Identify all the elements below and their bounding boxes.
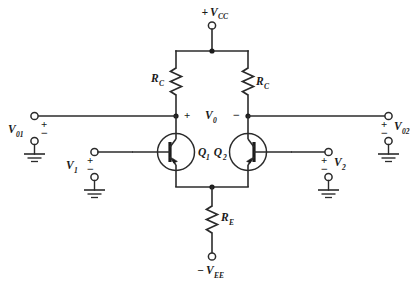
schematic-canvas: + V CC R C R C + − V 0 + − V 01 <box>0 0 419 283</box>
v0-subscript: 0 <box>213 116 217 125</box>
rc-right-zigzag <box>243 68 254 95</box>
rc-right-subscript: C <box>264 82 270 91</box>
rc-left-subscript: C <box>159 79 165 88</box>
vee-subscript: EE <box>213 271 224 280</box>
vcc-subscript: CC <box>218 12 229 21</box>
input-port-left-group: + − V 1 <box>66 148 132 197</box>
v01-minus-sign: − <box>41 126 48 140</box>
collector-resistor-left-group: R C <box>150 51 182 116</box>
v02-subscript: 02 <box>402 127 410 136</box>
rc-left-zigzag <box>171 68 182 95</box>
v01-subscript: 01 <box>16 130 24 139</box>
re-label: R <box>220 211 229 223</box>
v0-minus-sign: − <box>233 108 240 122</box>
v01-plus-terminal[interactable] <box>31 112 38 119</box>
input-port-right-group: + − V 2 <box>292 148 346 197</box>
emitter-resistor-group: R E <box>207 187 235 253</box>
v1-subscript: 1 <box>74 166 78 175</box>
supply-negative-group: − V EE <box>197 253 224 280</box>
collector-resistor-right-group: R C <box>243 51 271 116</box>
re-zigzag <box>207 206 218 233</box>
v01-minus-terminal[interactable] <box>31 137 38 144</box>
v0-plus-sign: + <box>184 109 190 121</box>
vcc-terminal-circle[interactable] <box>208 22 215 29</box>
top-rail-junction-dot <box>209 48 214 53</box>
v2-minus-sign: − <box>321 162 328 176</box>
supply-positive-group: + V CC <box>201 6 229 51</box>
re-subscript: E <box>228 218 234 227</box>
vee-terminal-circle[interactable] <box>208 253 215 260</box>
q2-subscript: 2 <box>222 153 227 162</box>
v2-subscript: 2 <box>341 163 346 172</box>
v02-minus-sign: − <box>381 126 388 140</box>
q2-label: Q <box>214 146 222 158</box>
v1-minus-sign: − <box>87 162 94 176</box>
q1-subscript: 1 <box>206 153 210 162</box>
vcc-plus-sign: + <box>201 6 208 18</box>
transistor-q1-group: Q 1 <box>132 116 210 187</box>
vee-minus-sign: − <box>197 264 204 276</box>
circuit-diagram: + V CC R C R C + − V 0 + − V 01 <box>0 0 419 283</box>
rc-left-label: R <box>150 72 159 84</box>
transistor-q2-group: Q 2 <box>214 116 292 187</box>
rc-right-label: R <box>255 75 264 87</box>
